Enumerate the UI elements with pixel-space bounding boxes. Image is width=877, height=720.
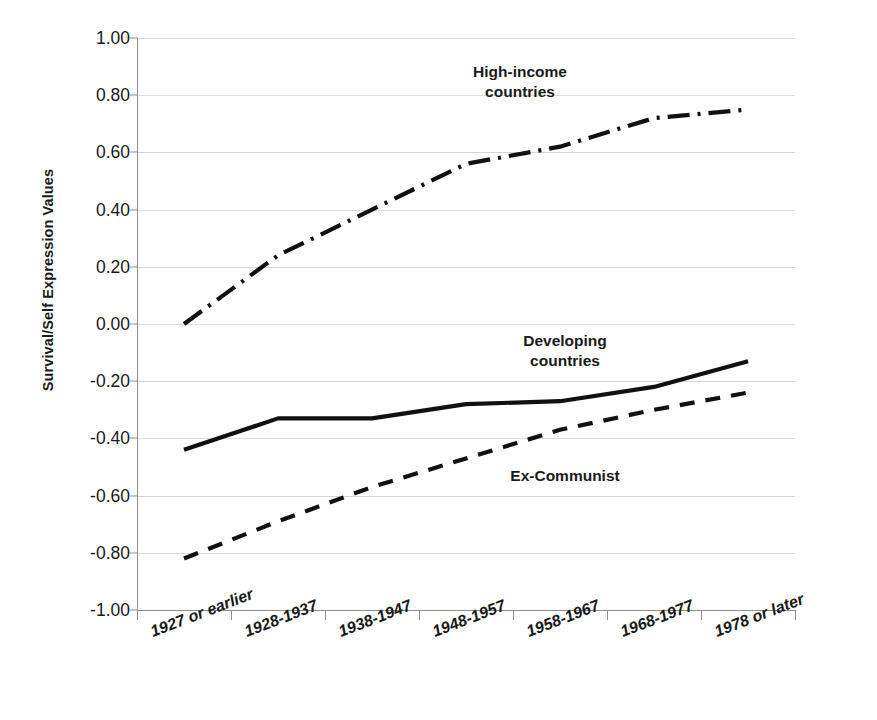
chart-container: Survival/Self Expression Values 1.000.80…: [0, 0, 877, 720]
x-axis-tick-labels: 1927 or earlier1928-19371938-19471948-19…: [0, 0, 877, 720]
x-tick-label: 1948-1957: [430, 597, 508, 641]
x-tick-label: 1958-1967: [524, 597, 602, 641]
x-tick-label: 1938-1947: [336, 597, 414, 641]
x-tick-label: 1927 or earlier: [148, 585, 256, 641]
x-tick-label: 1968-1977: [618, 597, 696, 641]
x-tick-label: 1978 or later: [712, 590, 806, 641]
x-tick-label: 1928-1937: [242, 597, 320, 641]
